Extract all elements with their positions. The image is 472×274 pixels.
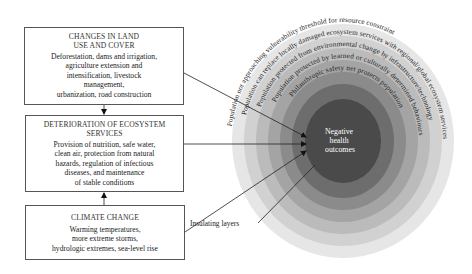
concentric-layers-diagram: Population not approaching vulnerability… (0, 0, 472, 274)
